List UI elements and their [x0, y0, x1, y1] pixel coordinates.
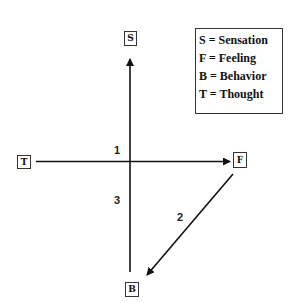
legend-box: S = Sensation F = Feeling B = Behavior T…	[195, 28, 283, 114]
arrow-f-to-b	[147, 174, 233, 275]
edge-label-3: 3	[114, 194, 120, 206]
edge-label-2: 2	[177, 211, 183, 223]
legend-item-behavior: B = Behavior	[199, 67, 282, 85]
legend-item-feeling: F = Feeling	[199, 49, 282, 67]
node-thought: T	[17, 155, 31, 169]
node-sensation: S	[124, 31, 137, 46]
node-feeling: F	[233, 152, 247, 168]
edge-label-1: 1	[114, 144, 120, 156]
diagram-canvas: S T F B S = Sensation F = Feeling B = Be…	[0, 0, 297, 305]
node-behavior: B	[125, 282, 139, 297]
legend-item-thought: T = Thought	[199, 85, 282, 103]
legend-item-sensation: S = Sensation	[199, 31, 282, 49]
